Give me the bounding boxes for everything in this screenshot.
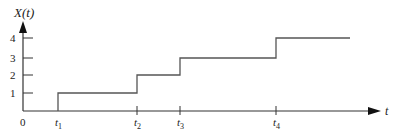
- y-tick-label-3: 3: [10, 52, 16, 64]
- x-axis-label: t: [385, 104, 389, 118]
- x-tick-label-t4: t4: [273, 116, 280, 131]
- y-tick-label-2: 2: [10, 69, 16, 81]
- step-chart: X(t) 1 2 3 4 0 t1 t2 t3 t4 t: [0, 0, 397, 133]
- origin-label: 0: [20, 116, 26, 128]
- y-axis-label: X(t): [13, 5, 34, 20]
- x-tick-label-t3: t3: [177, 116, 184, 131]
- x-tick-label-t2: t2: [134, 116, 141, 131]
- y-axis-arrow-icon: [19, 21, 27, 33]
- step-series-line: [58, 38, 350, 111]
- y-tick-label-1: 1: [10, 87, 16, 99]
- y-ticks: [23, 38, 33, 93]
- x-axis-arrow-icon: [368, 107, 381, 115]
- x-tick-label-t1: t1: [55, 116, 62, 131]
- y-tick-label-4: 4: [10, 32, 16, 44]
